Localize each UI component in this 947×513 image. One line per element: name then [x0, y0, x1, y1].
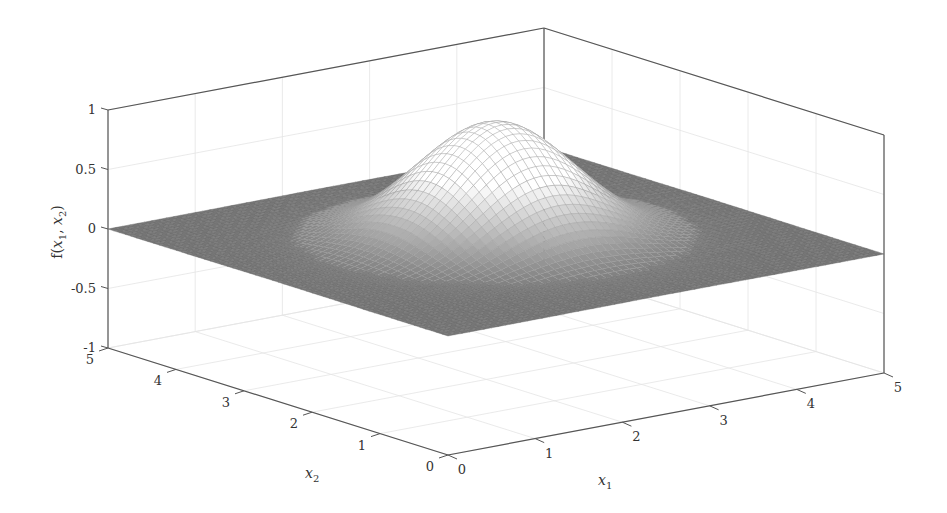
- floor-grid-line: [195, 332, 535, 439]
- x2-axis-line: [108, 348, 448, 455]
- x1-tick: [448, 455, 457, 459]
- x2-axis-label: x2: [305, 465, 319, 484]
- x1-tick-label: 3: [719, 413, 727, 428]
- x1-tick: [797, 389, 806, 393]
- z-tick-label: 1: [88, 102, 96, 117]
- x2-tick-label: 3: [222, 395, 230, 410]
- x2-tick: [235, 391, 244, 394]
- x1-tick-label: 2: [632, 429, 640, 444]
- z-axis-label: f(x1, x2): [49, 205, 68, 259]
- x2-tick-label: 2: [290, 416, 298, 431]
- x2-tick: [439, 455, 448, 458]
- x1-tick-label: 0: [458, 462, 466, 477]
- z-tick-label: 0: [88, 221, 96, 236]
- x2-tick: [371, 434, 380, 437]
- x1-tick: [622, 422, 631, 426]
- floor-grid-line: [312, 330, 748, 412]
- x1-tick-label: 4: [807, 396, 815, 411]
- z-tick: [101, 346, 108, 348]
- x1-tick: [884, 373, 893, 377]
- x1-tick: [710, 406, 719, 410]
- x2-tick: [167, 369, 176, 372]
- x2-tick-label: 1: [358, 438, 366, 453]
- x2-tick-label: 5: [86, 352, 94, 367]
- x2-tick: [303, 412, 312, 415]
- x1-tick: [535, 439, 544, 443]
- surface-mesh: [108, 121, 884, 336]
- z-tick: [101, 287, 108, 289]
- x1-axis-line: [448, 373, 884, 455]
- x2-tick-label: 0: [426, 459, 434, 474]
- x2-tick-label: 4: [154, 373, 162, 388]
- z-tick-label: 0.5: [75, 162, 96, 177]
- z-tick: [101, 168, 108, 170]
- x2-tick: [99, 348, 108, 351]
- box-edge: [544, 28, 884, 135]
- box-edge: [108, 28, 544, 110]
- z-tick: [101, 227, 108, 229]
- x1-axis-label: x1: [598, 472, 612, 491]
- z-tick: [101, 108, 108, 110]
- z-tick-label: -0.5: [71, 281, 96, 296]
- x1-tick-label: 1: [545, 446, 553, 461]
- x1-tick-label: 5: [894, 380, 902, 395]
- floor-grid-line: [380, 352, 816, 434]
- surface-plot: -1-0.500.51012345012345 x1 x2 f(x1, x2): [0, 0, 947, 513]
